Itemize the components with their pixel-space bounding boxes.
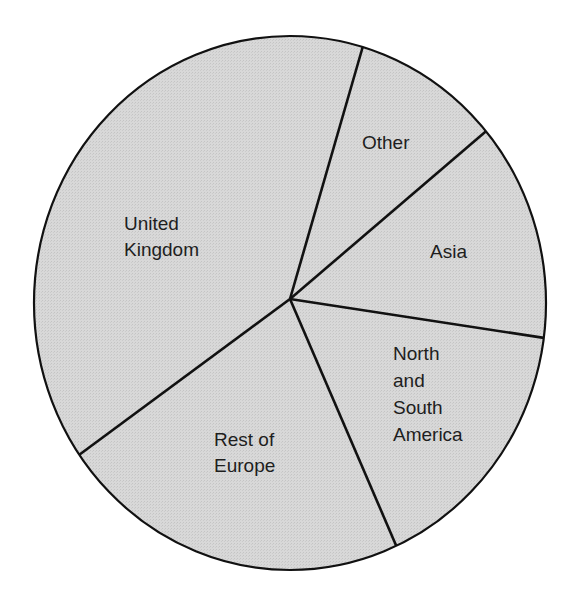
slice-label-asia: Asia <box>430 239 467 265</box>
pie-chart <box>0 0 574 595</box>
slice-label-other: Other <box>362 130 410 156</box>
pie-fill <box>34 36 546 570</box>
slice-label-united-kingdom: United Kingdom <box>124 211 199 263</box>
pie-slices <box>34 36 546 570</box>
slice-label-rest-of-europe: Rest of Europe <box>214 427 275 479</box>
slice-label-north-south-america: North and South America <box>393 340 463 448</box>
